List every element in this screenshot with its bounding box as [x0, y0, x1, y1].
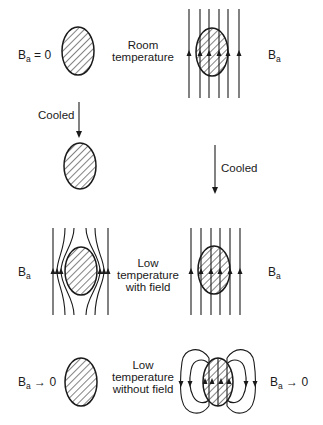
sample-left-low-without-field — [65, 358, 97, 406]
field-subscript: a — [26, 271, 31, 281]
label-cooled-right: Cooled — [221, 162, 257, 174]
label-ba-room-right: Ba — [268, 48, 281, 64]
label-ba-low-with-right: Ba — [268, 265, 281, 281]
sample-right-low-with-field — [198, 246, 230, 294]
label-ba-low-with-left: Ba — [18, 265, 31, 281]
field-symbol: B — [18, 265, 26, 279]
label-ba-zero: Ba = 0 — [18, 48, 51, 64]
field-symbol: B — [268, 48, 276, 62]
label-low-temp-without-field: Low temperature without field — [108, 359, 178, 395]
field-subscript: a — [276, 271, 281, 281]
cooled-arrow-right — [212, 145, 218, 194]
cooled-left-text: Cooled — [38, 109, 74, 121]
label-room-temperature: Room temperature — [111, 39, 175, 63]
field-symbol: B — [18, 375, 26, 389]
cooled-right-text: Cooled — [221, 162, 257, 174]
low-without-line2: temperature — [108, 371, 178, 383]
sample-left-low-with-field — [65, 247, 97, 295]
field-symbol: B — [270, 375, 278, 389]
label-ba-to-zero-right: Ba → 0 — [270, 375, 308, 391]
field-symbol: B — [268, 265, 276, 279]
low-with-line2: temperature — [116, 269, 180, 281]
label-low-temp-with-field: Low temperature with field — [116, 257, 180, 293]
low-with-line1: Low — [116, 257, 180, 269]
field-subscript: a — [276, 54, 281, 64]
low-without-line3: without field — [108, 383, 178, 395]
room-line2: temperature — [111, 51, 175, 63]
room-line1: Room — [111, 39, 175, 51]
sample-left-cooled — [64, 143, 96, 189]
label-ba-to-zero-left: Ba → 0 — [18, 375, 56, 391]
to-zero: → 0 — [283, 375, 308, 389]
eq-zero: = 0 — [31, 48, 51, 62]
sample-left-room — [62, 27, 94, 75]
low-with-line3: with field — [116, 281, 180, 293]
cooled-arrow-left — [76, 102, 82, 138]
low-without-line1: Low — [108, 359, 178, 371]
to-zero: → 0 — [31, 375, 56, 389]
field-symbol: B — [18, 48, 26, 62]
label-cooled-left: Cooled — [38, 109, 74, 121]
